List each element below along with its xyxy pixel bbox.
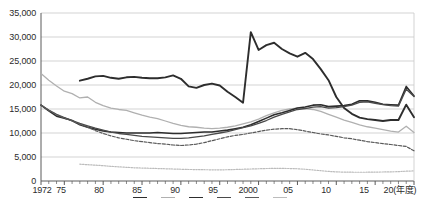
x-tick-2015: 15	[353, 186, 375, 195]
data-series-group	[41, 32, 414, 172]
x-tick-2000: 2000	[233, 186, 263, 195]
chart-plot-area	[0, 0, 423, 205]
x-tick-1985: 85	[126, 186, 148, 195]
legend-swatch-2	[189, 197, 203, 198]
legend-entry-4[interactable]	[245, 197, 262, 198]
gridlines	[41, 13, 414, 181]
x-tick-2005: 05	[277, 186, 299, 195]
legend-swatch-4	[245, 197, 259, 198]
line-chart: 35,000 30,000 25,000 20,000 15,000 10,00…	[0, 0, 423, 205]
legend-swatch-3	[217, 197, 231, 198]
legend-entry-5[interactable]	[273, 197, 290, 198]
y-tick-5000: 5,000	[0, 153, 36, 162]
legend-entry-0[interactable]	[133, 197, 150, 198]
y-tick-35000: 35,000	[0, 9, 36, 18]
y-tick-0: 0	[0, 177, 36, 186]
y-tick-25000: 25,000	[0, 57, 36, 66]
legend-entry-3[interactable]	[217, 197, 234, 198]
chart-legend	[0, 197, 423, 205]
x-tick-2020: 20(年度)	[377, 186, 423, 195]
y-tick-20000: 20,000	[0, 81, 36, 90]
y-tick-15000: 15,000	[0, 105, 36, 114]
series-line-series-thick-dark	[80, 32, 414, 121]
series-line-series-light-dotted	[80, 164, 414, 172]
x-tick-1975: 75	[50, 186, 72, 195]
axis-lines	[41, 13, 414, 181]
x-tick-2010: 10	[315, 186, 337, 195]
series-line-series-dark-solid-a	[41, 86, 414, 133]
legend-entry-1[interactable]	[161, 197, 178, 198]
legend-swatch-5	[273, 197, 287, 198]
x-tick-1980: 80	[88, 186, 110, 195]
legend-entry-2[interactable]	[189, 197, 206, 198]
x-tick-1990: 90	[164, 186, 186, 195]
legend-swatch-1	[161, 197, 175, 198]
legend-swatch-0	[133, 197, 147, 198]
y-tick-30000: 30,000	[0, 33, 36, 42]
x-tick-1995: 95	[202, 186, 224, 195]
y-tick-10000: 10,000	[0, 129, 36, 138]
